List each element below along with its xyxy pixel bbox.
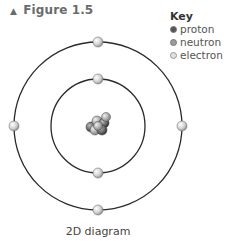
electron-icon: [93, 37, 103, 47]
atom-diagram: [0, 0, 226, 241]
nucleus: [86, 113, 111, 136]
electron-icon: [177, 121, 187, 131]
electron-icon: [9, 121, 19, 131]
electron-icon: [93, 74, 103, 84]
figure-caption: 2D diagram: [0, 225, 196, 238]
electron-icon: [93, 168, 103, 178]
electron-icon: [93, 205, 103, 215]
